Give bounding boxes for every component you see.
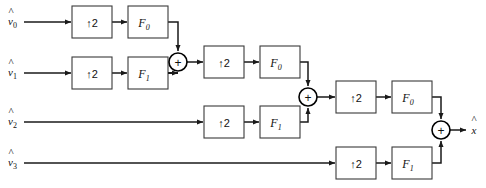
wire-f1-row3-to-sum2 bbox=[300, 108, 308, 122]
upsampler-label-row1: ↑2 bbox=[86, 17, 98, 29]
upsampler-label-row3: ↑2 bbox=[218, 117, 230, 129]
filter-block-row1[interactable]: F0 bbox=[128, 6, 168, 38]
wire-f1-row4-to-sum3 bbox=[432, 141, 441, 163]
input-label-v3: ^ v3 bbox=[8, 146, 17, 171]
x-label: x bbox=[471, 124, 477, 136]
filter-rect-row3 bbox=[260, 106, 300, 138]
v1-label: v1 bbox=[8, 66, 17, 81]
v3-label: v3 bbox=[8, 156, 17, 171]
diagram-canvas: ↑2 F0 ↑2 F1 ↑2 F0 ↑2 F1 ↑2 F0 bbox=[0, 0, 486, 188]
output-label-x: ^ x bbox=[471, 113, 478, 136]
upsampler-block-row2[interactable]: ↑2 bbox=[72, 57, 112, 89]
upsampler-block-row4[interactable]: ↑2 bbox=[336, 147, 376, 179]
upsampler-block-row3[interactable]: ↑2 bbox=[204, 106, 244, 138]
filter-rect-row1 bbox=[128, 6, 168, 38]
filter-rect-row4 bbox=[392, 147, 432, 179]
filter-block-mid2[interactable]: F0 bbox=[392, 81, 432, 113]
filter-block-row2[interactable]: F1 bbox=[128, 57, 168, 89]
wire-f0-mid2-to-sum3 bbox=[432, 97, 441, 119]
filter-block-mid1[interactable]: F0 bbox=[260, 46, 300, 78]
filter-block-row4[interactable]: F1 bbox=[392, 147, 432, 179]
upsampler-label-row2: ↑2 bbox=[86, 68, 98, 80]
input-label-v1: ^ v1 bbox=[8, 56, 17, 81]
filter-rect-mid1 bbox=[260, 46, 300, 78]
filter-block-row3[interactable]: F1 bbox=[260, 106, 300, 138]
wire-f0-row1-to-sum1 bbox=[168, 22, 178, 51]
summing-junction-1[interactable]: + bbox=[169, 53, 187, 71]
summing-junction-2[interactable]: + bbox=[299, 88, 317, 106]
block-diagram: ↑2 F0 ↑2 F1 ↑2 F0 ↑2 F1 ↑2 F0 bbox=[0, 0, 486, 188]
upsampler-block-mid1[interactable]: ↑2 bbox=[204, 46, 244, 78]
v2-label: v2 bbox=[8, 115, 17, 130]
upsampler-block-mid2[interactable]: ↑2 bbox=[336, 81, 376, 113]
input-label-v2: ^ v2 bbox=[8, 105, 17, 130]
upsampler-label-mid2: ↑2 bbox=[350, 92, 362, 104]
adder-plus-1: + bbox=[174, 56, 181, 70]
adder-plus-3: + bbox=[437, 124, 444, 138]
wire-f0-mid1-to-sum2 bbox=[300, 62, 308, 86]
filter-rect-row2 bbox=[128, 57, 168, 89]
upsampler-block-row1[interactable]: ↑2 bbox=[72, 6, 112, 38]
input-label-v0: ^ v0 bbox=[8, 5, 17, 30]
upsampler-label-mid1: ↑2 bbox=[218, 57, 230, 69]
upsampler-label-row4: ↑2 bbox=[350, 158, 362, 170]
summing-junction-3[interactable]: + bbox=[432, 121, 450, 139]
v0-label: v0 bbox=[8, 15, 17, 30]
filter-rect-mid2 bbox=[392, 81, 432, 113]
adder-plus-2: + bbox=[304, 91, 311, 105]
